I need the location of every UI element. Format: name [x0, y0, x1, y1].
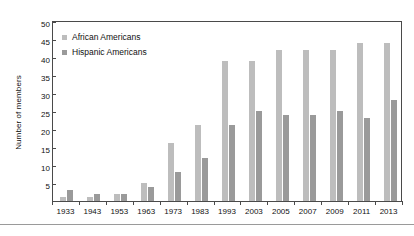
- x-axis-tick-mark: [348, 201, 349, 205]
- y-axis-tick: 45: [41, 31, 53, 49]
- bar: [229, 125, 235, 201]
- y-axis-tick: 20: [41, 121, 53, 139]
- chart-legend: African AmericansHispanic Americans: [62, 32, 147, 62]
- y-axis-title: Number of members: [14, 33, 23, 193]
- x-axis-tick-mark: [160, 201, 161, 205]
- bar: [384, 43, 390, 201]
- bar-group: [248, 22, 262, 201]
- x-axis-tick-mark: [187, 201, 188, 205]
- x-axis-tick-mark: [106, 201, 107, 205]
- x-axis-line: [52, 201, 402, 202]
- y-axis-tick: 10: [41, 157, 53, 175]
- y-axis-tick-label: 20: [41, 128, 53, 137]
- y-axis-tick-label: 10: [41, 164, 53, 173]
- x-axis-tick-mark: [402, 201, 403, 205]
- bar: [222, 61, 228, 201]
- bar: [249, 61, 255, 201]
- x-axis-tick-label: 2013: [369, 207, 409, 216]
- legend-item: African Americans: [62, 32, 147, 42]
- y-axis-tick-label: 25: [41, 110, 53, 119]
- bar-group: [275, 22, 289, 201]
- bar: [330, 50, 336, 201]
- y-axis-tick-label: 15: [41, 146, 53, 155]
- y-axis-tick: 25: [41, 103, 53, 121]
- bar-group: [221, 22, 235, 201]
- legend-item-label: Hispanic Americans: [72, 47, 147, 57]
- y-axis-tick: 35: [41, 67, 53, 85]
- legend-item-label: African Americans: [72, 32, 141, 42]
- y-axis-tick: 15: [41, 139, 53, 157]
- bar-group: [356, 22, 370, 201]
- y-axis-tick-label: 45: [41, 38, 53, 47]
- y-axis-tick: 5: [46, 175, 53, 193]
- bar: [168, 143, 174, 201]
- bar: [303, 50, 309, 201]
- bar: [364, 118, 370, 201]
- x-axis-tick-mark: [133, 201, 134, 205]
- y-axis-tick-label: 40: [41, 56, 53, 65]
- bar: [337, 111, 343, 201]
- y-axis-tick: 50: [41, 13, 53, 31]
- bar-group: [167, 22, 181, 201]
- x-axis-tick-mark: [321, 201, 322, 205]
- legend-swatch-icon: [62, 35, 67, 40]
- bar: [141, 183, 147, 201]
- footer-divider: [0, 224, 414, 225]
- y-axis-tick-label: 5: [46, 182, 53, 191]
- bar-group: [329, 22, 343, 201]
- y-axis-tick: 30: [41, 85, 53, 103]
- x-axis-tick-mark: [267, 201, 268, 205]
- bar: [276, 50, 282, 201]
- bar: [202, 158, 208, 201]
- x-axis-tick-mark: [294, 201, 295, 205]
- x-axis-tick-mark: [214, 201, 215, 205]
- bar: [94, 194, 100, 201]
- bar-group: [383, 22, 397, 201]
- bar: [283, 115, 289, 201]
- bar: [114, 194, 120, 201]
- bar: [67, 190, 73, 201]
- bar: [195, 125, 201, 201]
- bar: [148, 187, 154, 201]
- bar: [357, 43, 363, 201]
- bar: [391, 100, 397, 201]
- y-axis-tick-label: 30: [41, 92, 53, 101]
- y-axis-tick-label: 35: [41, 74, 53, 83]
- bar-group: [302, 22, 316, 201]
- legend-item: Hispanic Americans: [62, 47, 147, 57]
- x-axis-tick-mark: [240, 201, 241, 205]
- y-axis-tick-label: 50: [41, 20, 53, 29]
- bar: [256, 111, 262, 201]
- chart-figure: Number of members 5101520253035404550 19…: [0, 0, 414, 236]
- y-axis-tick: 40: [41, 49, 53, 67]
- legend-swatch-icon: [62, 50, 67, 55]
- x-axis-tick-mark: [52, 201, 53, 205]
- bar: [310, 115, 316, 201]
- bar-group: [194, 22, 208, 201]
- x-axis-tick-mark: [375, 201, 376, 205]
- bar: [175, 172, 181, 201]
- bar: [121, 194, 127, 201]
- x-axis-tick-mark: [79, 201, 80, 205]
